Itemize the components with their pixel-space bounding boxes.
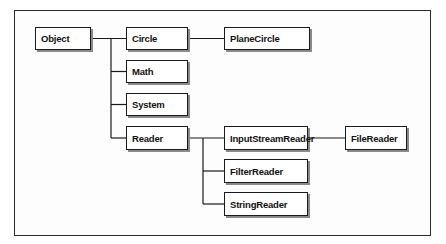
node-circle: Circle [126, 27, 188, 50]
node-label: Object [41, 33, 69, 44]
node-label: FilterReader [230, 166, 283, 177]
node-math: Math [126, 60, 188, 83]
node-system: System [126, 93, 188, 116]
node-label: StringReader [230, 199, 287, 210]
node-reader: Reader [126, 126, 188, 150]
node-input-stream-reader: InputStreamReader [224, 126, 308, 150]
node-string-reader: StringReader [224, 192, 308, 216]
node-filter-reader: FilterReader [224, 159, 308, 183]
node-label: Reader [132, 133, 163, 144]
node-label: InputStreamReader [230, 133, 314, 144]
node-plane-circle: PlaneCircle [224, 27, 310, 50]
node-label: Math [132, 66, 153, 77]
node-object: Object [35, 27, 91, 50]
node-label: System [132, 99, 165, 110]
node-file-reader: FileReader [345, 126, 407, 150]
node-label: PlaneCircle [230, 33, 280, 44]
node-label: FileReader [351, 133, 398, 144]
node-label: Circle [132, 33, 157, 44]
